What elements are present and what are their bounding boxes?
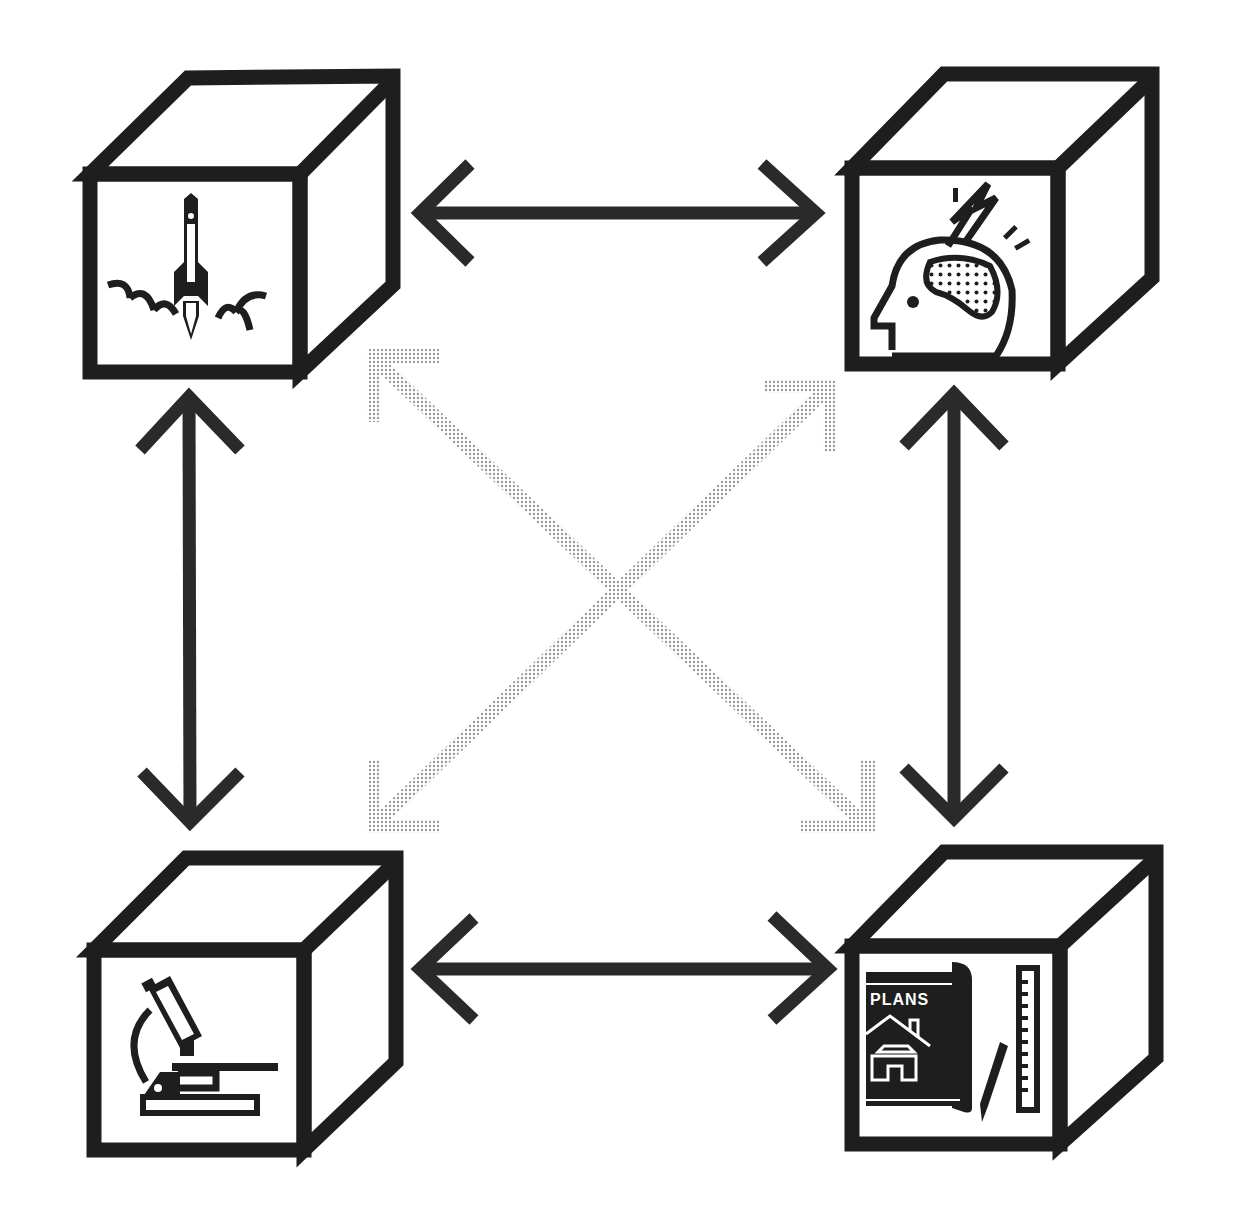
dotted-arrow-tr-bl xyxy=(374,386,830,826)
arrow-right-vertical xyxy=(904,394,1004,818)
head-brain-lightning-icon xyxy=(874,184,1030,356)
cube-bottom-right: PLANS xyxy=(852,852,1156,1144)
arrow-bottom-horizontal xyxy=(420,916,828,1020)
cube-top-left xyxy=(90,76,393,372)
arrow-left-vertical xyxy=(140,397,240,822)
blueprint-plans-icon: PLANS xyxy=(866,962,1040,1122)
plans-label: PLANS xyxy=(870,991,929,1008)
rocket-launch-icon xyxy=(108,193,266,340)
cube-bottom-left xyxy=(94,858,396,1150)
cube-network-diagram: PLANS xyxy=(0,0,1234,1221)
cube-top-right xyxy=(852,74,1152,364)
arrow-top-horizontal xyxy=(420,164,818,262)
microscope-icon xyxy=(134,976,278,1116)
